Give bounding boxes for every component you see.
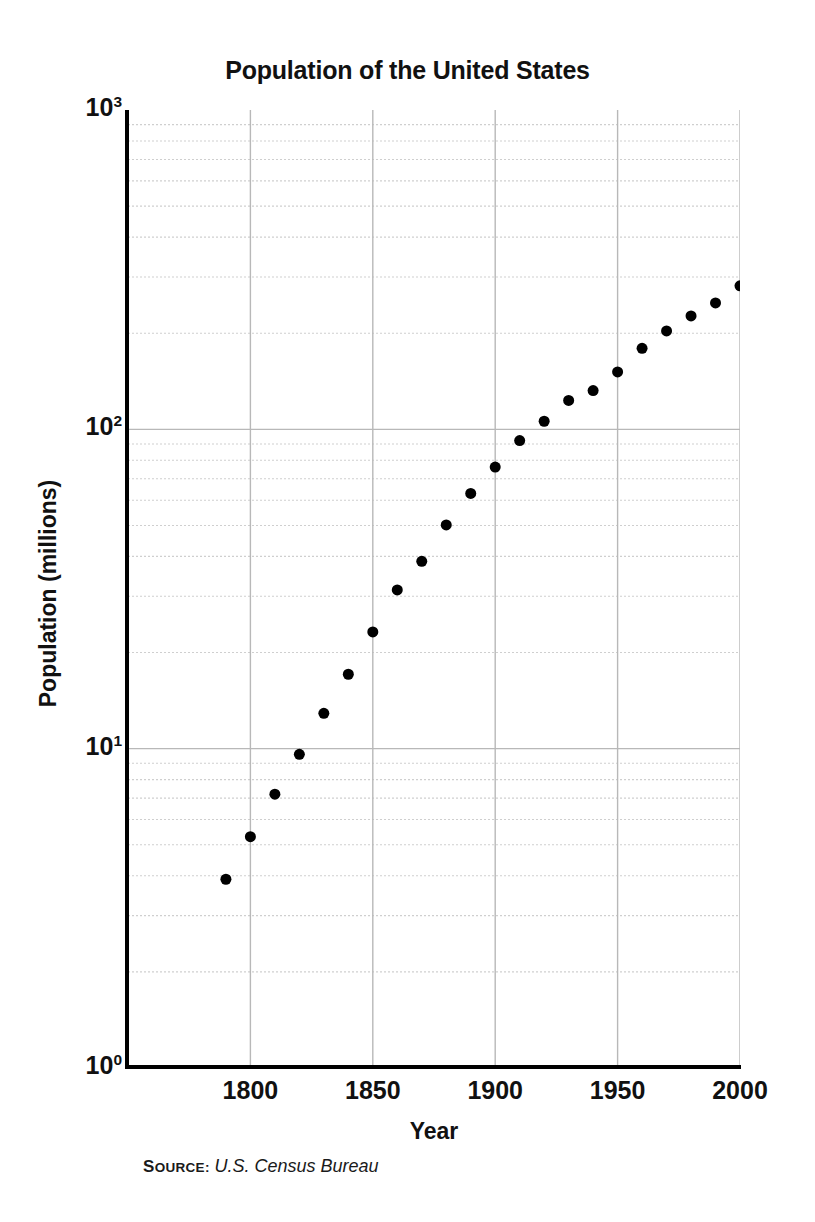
- y-axis-title: Population (millions): [35, 284, 62, 904]
- x-tick-label: 2000: [690, 1076, 790, 1105]
- y-tick-exponent: 2: [113, 412, 122, 429]
- data-point: [269, 789, 280, 800]
- y-tick-mantissa: 10: [86, 93, 114, 121]
- y-tick-exponent: 3: [113, 93, 122, 110]
- plot-area: [128, 110, 740, 1068]
- y-axis-tick-labels: 103102101100: [58, 110, 122, 1068]
- x-tick-label: 1800: [200, 1076, 300, 1105]
- x-axis-line: [125, 1065, 741, 1069]
- data-point: [539, 416, 550, 427]
- x-axis-tick-labels: 18001850190019502000: [128, 1076, 740, 1110]
- y-tick-exponent: 1: [113, 731, 122, 748]
- data-point: [318, 708, 329, 719]
- source-label-rest: OURCE:: [155, 1160, 210, 1175]
- y-tick-label: 103: [62, 95, 122, 120]
- y-tick-label: 100: [62, 1053, 122, 1078]
- data-point: [392, 584, 403, 595]
- x-axis-title: Year: [128, 1118, 740, 1145]
- data-point: [588, 385, 599, 396]
- source-label: SOURCE:: [143, 1160, 210, 1175]
- data-point: [514, 435, 525, 446]
- data-point-group: [220, 280, 740, 884]
- y-tick-mantissa: 10: [86, 1051, 114, 1079]
- data-point: [612, 366, 623, 377]
- data-point: [441, 519, 452, 530]
- chart-title: Population of the United States: [0, 56, 815, 85]
- data-point: [294, 749, 305, 760]
- data-point: [220, 874, 231, 885]
- major-horizontal-gridlines: [128, 429, 740, 748]
- y-tick-mantissa: 10: [86, 732, 114, 760]
- data-point: [563, 395, 574, 406]
- data-point: [490, 462, 501, 473]
- data-point: [735, 280, 741, 291]
- y-tick-exponent: 0: [113, 1051, 122, 1068]
- data-point: [710, 297, 721, 308]
- y-axis-line: [125, 110, 129, 1068]
- x-tick-label: 1950: [568, 1076, 668, 1105]
- major-vertical-gridlines: [250, 110, 740, 1068]
- plot-canvas: [128, 110, 740, 1068]
- chart-figure: Population of the United States 10310210…: [0, 0, 815, 1222]
- source-note: SOURCE: U.S. Census Bureau: [143, 1156, 379, 1177]
- data-point: [686, 310, 697, 321]
- data-point: [367, 626, 378, 637]
- source-label-initial: S: [143, 1157, 155, 1176]
- data-point: [245, 831, 256, 842]
- x-tick-label: 1850: [323, 1076, 423, 1105]
- data-point: [343, 669, 354, 680]
- y-tick-label: 102: [62, 414, 122, 439]
- data-point: [637, 343, 648, 354]
- data-point: [416, 556, 427, 567]
- y-tick-label: 101: [62, 734, 122, 759]
- minor-gridlines: [128, 125, 740, 972]
- data-point: [661, 325, 672, 336]
- data-point: [465, 488, 476, 499]
- y-tick-mantissa: 10: [86, 412, 114, 440]
- source-value: U.S. Census Bureau: [214, 1156, 378, 1176]
- x-tick-label: 1900: [445, 1076, 545, 1105]
